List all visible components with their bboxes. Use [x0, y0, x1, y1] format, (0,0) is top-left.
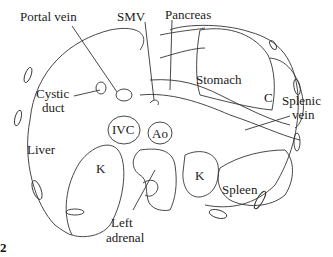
label-ivc: IVC	[112, 123, 134, 137]
label-ao: Ao	[152, 127, 168, 141]
label-c: C	[264, 91, 273, 105]
label-k-right: K	[96, 162, 105, 176]
label-liver: Liver	[27, 143, 55, 157]
label-cystic-duct-2: duct	[42, 101, 64, 115]
label-k-left: K	[195, 169, 204, 183]
label-stomach: Stomach	[196, 73, 242, 87]
label-pancreas: Pancreas	[165, 8, 211, 22]
label-spleen: Spleen	[222, 183, 257, 197]
label-left-adrenal-2: adrenal	[106, 231, 144, 245]
figure-number: 2	[0, 240, 7, 256]
label-portal-vein: Portal vein	[20, 10, 77, 24]
label-cystic-duct-1: Cystic	[36, 87, 69, 101]
label-smv: SMV	[117, 10, 145, 24]
label-left-adrenal-1: Left	[111, 216, 133, 230]
label-splenic-vein-2: vein	[292, 108, 314, 122]
label-splenic-vein-1: Splenic	[282, 94, 321, 108]
